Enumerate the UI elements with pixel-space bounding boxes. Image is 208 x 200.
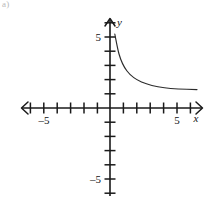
x-axis-label: x <box>193 112 199 124</box>
hyperbola-curve <box>115 34 197 90</box>
y-axis-label: y <box>116 16 122 28</box>
x-tick-label-positive-five: 5 <box>174 114 180 126</box>
y-tick-label-negative-five: –5 <box>89 173 102 185</box>
y-tick-label-positive-five: 5 <box>96 31 102 43</box>
x-tick-label-negative-five: –5 <box>38 114 51 126</box>
x-axis-group <box>22 102 203 114</box>
coordinate-plane-figure: a) <box>0 0 208 200</box>
graph-canvas: y x 5 –5 –5 5 <box>0 0 208 200</box>
